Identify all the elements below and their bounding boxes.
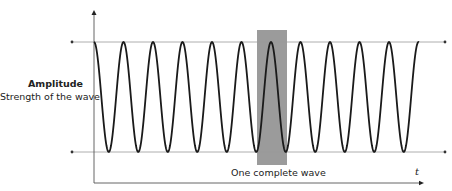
time-axis-label: t bbox=[415, 166, 419, 177]
one-complete-wave-caption: One complete wave bbox=[231, 167, 326, 178]
amplitude-subtitle: Strength of the wave bbox=[0, 91, 83, 102]
y-axis-arrow-icon bbox=[92, 10, 97, 15]
guide-dot bbox=[444, 41, 447, 44]
x-axis-arrow-icon bbox=[419, 181, 424, 186]
guide-dot bbox=[444, 151, 447, 154]
amplitude-title: Amplitude bbox=[0, 78, 83, 89]
guide-dot bbox=[71, 151, 74, 154]
guide-dot bbox=[71, 41, 74, 44]
sine-wave bbox=[94, 42, 419, 152]
